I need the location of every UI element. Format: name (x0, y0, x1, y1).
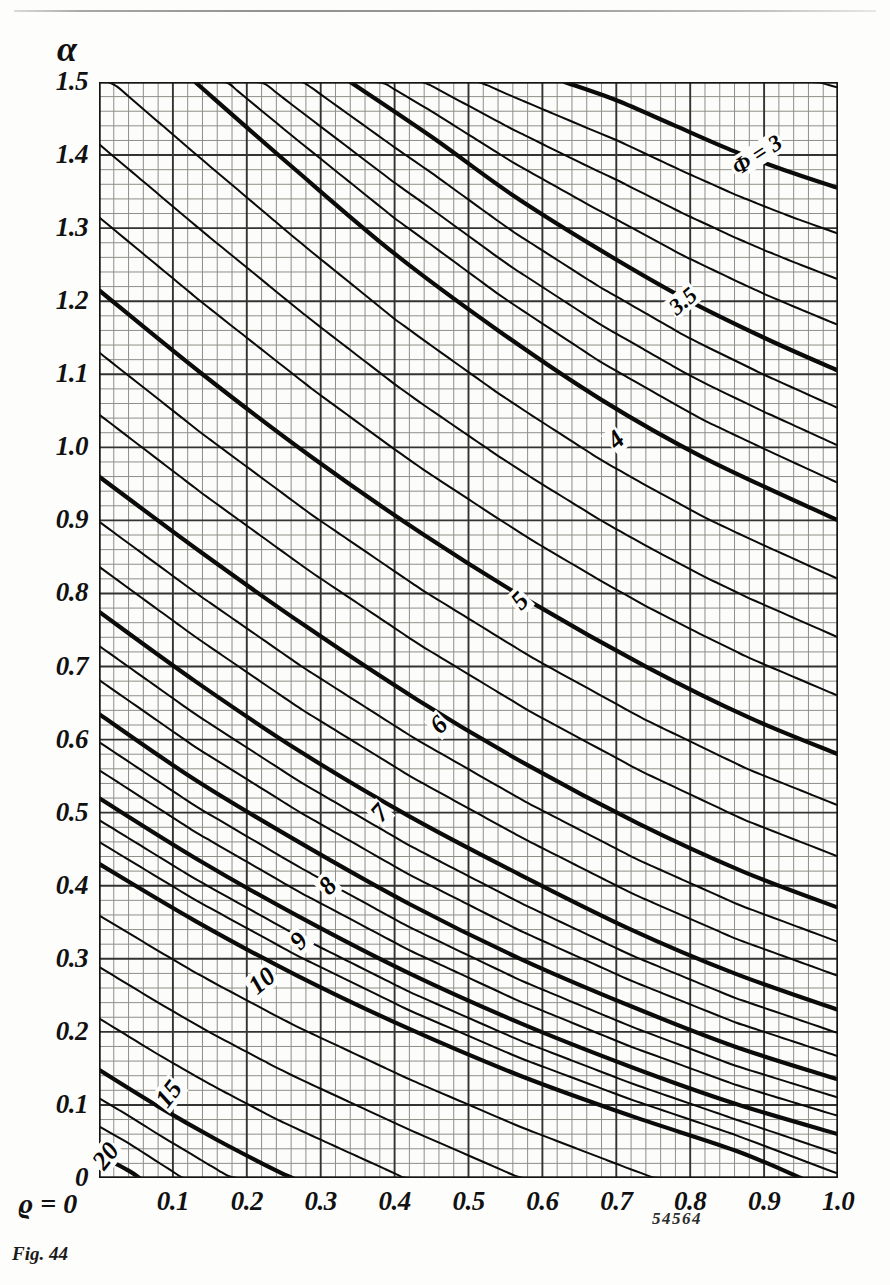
figure-page: α ϱ = 0 54564 Fig. 44 00.10.20.30.40.50.… (0, 0, 890, 1285)
y-tick-0-1: 0.1 (18, 1089, 88, 1120)
y-tick-0: 0 (18, 1162, 88, 1193)
y-axis-symbol: α (57, 28, 77, 70)
y-tick-0-7: 0.7 (18, 651, 88, 682)
x-tick-1-0: 1.0 (793, 1186, 883, 1217)
y-tick-1-5: 1.5 (18, 66, 88, 97)
y-tick-0-4: 0.4 (18, 870, 88, 901)
nomogram-svg (99, 82, 838, 1178)
figure-caption: Fig. 44 (12, 1243, 68, 1265)
y-tick-0-6: 0.6 (18, 724, 88, 755)
y-tick-0-9: 0.9 (18, 504, 88, 535)
y-tick-0-5: 0.5 (18, 797, 88, 828)
y-tick-1-1: 1.1 (18, 358, 88, 389)
scan-rule-line (14, 10, 876, 12)
y-tick-1-2: 1.2 (18, 285, 88, 316)
y-tick-0-8: 0.8 (18, 577, 88, 608)
y-tick-1-0: 1.0 (18, 431, 88, 462)
y-tick-0-2: 0.2 (18, 1016, 88, 1047)
y-tick-1-4: 1.4 (18, 139, 88, 170)
y-tick-1-3: 1.3 (18, 212, 88, 243)
y-tick-0-3: 0.3 (18, 943, 88, 974)
plot-area: Φ = 33.5456789101520 (99, 82, 838, 1178)
